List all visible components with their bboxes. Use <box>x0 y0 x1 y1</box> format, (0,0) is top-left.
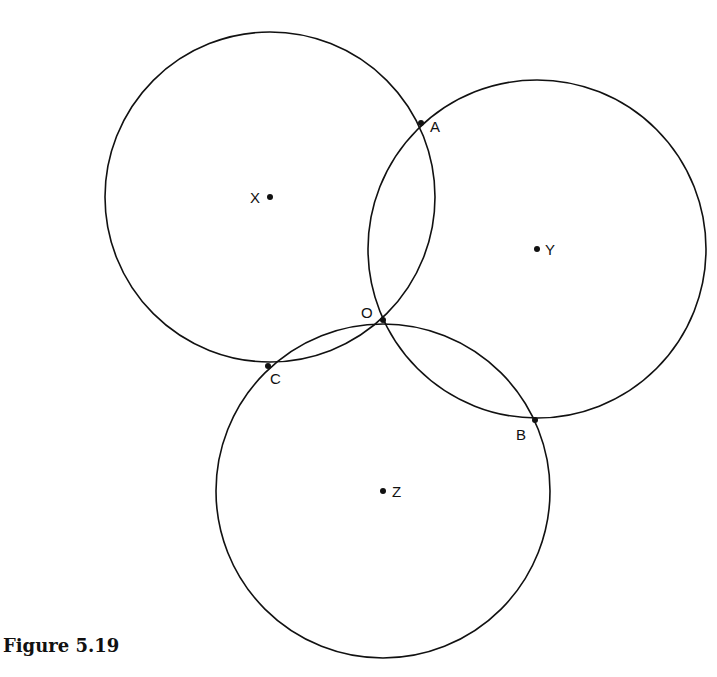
label-x: X <box>250 189 260 206</box>
point-c <box>265 363 271 369</box>
figure-caption: Figure 5.19 <box>3 635 119 656</box>
point-b <box>532 417 538 423</box>
label-y: Y <box>545 241 555 258</box>
point-a <box>418 120 424 126</box>
three-circles-diagram: X Y Z A O C B <box>0 0 717 677</box>
point-x <box>267 194 273 200</box>
label-c: C <box>270 370 281 387</box>
label-a: A <box>430 118 440 135</box>
label-o: O <box>361 304 373 321</box>
point-z <box>380 488 386 494</box>
point-y <box>534 246 540 252</box>
label-b: B <box>516 426 526 443</box>
label-z: Z <box>392 483 401 500</box>
point-o <box>380 317 386 323</box>
